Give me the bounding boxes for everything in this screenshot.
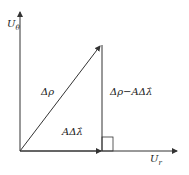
hypotenuse-label: Δρ [41, 86, 54, 97]
y-axis-label: Uθ [7, 18, 20, 32]
diagram-lines [0, 0, 189, 175]
vector-diagram: Uθ Ur Δρ Δρ−AΔλ̂ AΔλ̂ [0, 0, 189, 175]
hypotenuse-vector [20, 46, 100, 151]
x-axis-label: Ur [150, 153, 162, 167]
right-angle-marker [102, 137, 113, 151]
vertical-label: Δρ−AΔλ̂ [110, 86, 152, 97]
base-label: AΔλ̂ [62, 126, 83, 137]
